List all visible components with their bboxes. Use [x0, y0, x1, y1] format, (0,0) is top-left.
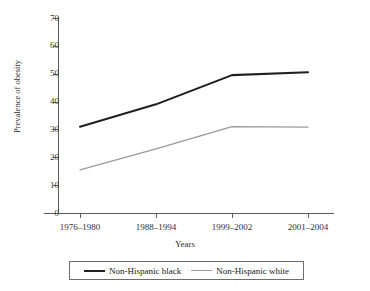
legend-item-non-hispanic-black: Non-Hispanic black [84, 266, 181, 276]
x-axis-tick [232, 213, 233, 218]
y-axis-tick-label: 40 [25, 97, 59, 106]
x-axis-tick [308, 213, 309, 218]
series-line-non-hispanic-white [80, 127, 308, 170]
y-axis-tick-label: 30 [25, 125, 59, 134]
x-axis-line [44, 213, 334, 214]
x-axis-tick-label: 1999–2002 [192, 222, 272, 232]
x-axis-tick [156, 213, 157, 218]
y-axis-tick-label: 50 [25, 69, 59, 78]
y-axis-tick-label: 60 [25, 41, 59, 50]
chart-legend: Non-Hispanic black Non-Hispanic white [69, 261, 304, 280]
cropped-caption-sliver [0, 0, 370, 7]
x-axis-title: Years [0, 239, 370, 249]
legend-line-swatch-white-icon [191, 270, 212, 271]
legend-label-non-hispanic-black: Non-Hispanic black [109, 266, 181, 276]
legend-label-non-hispanic-white: Non-Hispanic white [216, 266, 289, 276]
y-axis-tick-label-wrap: 10 [12, 181, 59, 190]
y-axis-tick-label: 20 [25, 153, 59, 162]
obesity-prevalence-line-chart: 010203040506070 1976–19801988–19941999–2… [0, 0, 370, 291]
x-axis-tick-label: 1976–1980 [40, 222, 120, 232]
series-line-non-hispanic-black [80, 72, 308, 126]
y-axis-title: Prevalence of obesity [13, 32, 22, 162]
x-axis-tick-label: 2001–2004 [268, 222, 348, 232]
legend-line-swatch-black-icon [84, 270, 105, 272]
y-axis-tick-label-wrap: 70 [12, 14, 59, 23]
x-axis-tick [80, 213, 81, 218]
y-axis-tick-label: 10 [25, 181, 59, 190]
legend-item-non-hispanic-white: Non-Hispanic white [191, 266, 289, 276]
y-axis-tick-label-wrap: 0 [12, 209, 59, 218]
y-axis-tick-label: 0 [25, 209, 59, 218]
y-axis-tick-label: 70 [25, 14, 59, 23]
x-axis-tick-label: 1988–1994 [116, 222, 196, 232]
